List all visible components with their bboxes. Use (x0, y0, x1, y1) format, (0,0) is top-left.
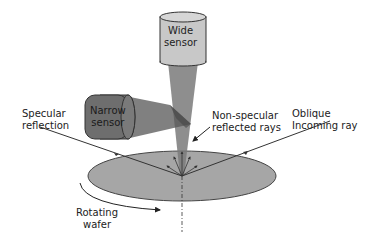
non-specular-leader (193, 127, 210, 141)
narrow-sensor-label-line1: Narrow (90, 105, 126, 117)
oblique-label-line2: Incoming ray (292, 120, 357, 132)
specular-reflection-label: Specular reflection (22, 108, 69, 132)
rotating-wafer-label-line1: Rotating (76, 207, 118, 219)
narrow-sensor-label: Narrow sensor (90, 105, 126, 129)
rotating-wafer-label: Rotating wafer (76, 207, 118, 231)
specular-reflection-label-line2: reflection (22, 120, 69, 132)
wide-sensor-label-line1: Wide (164, 25, 197, 37)
oblique-label: Oblique Incoming ray (292, 108, 357, 132)
non-specular-label: Non-specular reflected rays (212, 110, 281, 134)
non-specular-label-line1: Non-specular (212, 110, 281, 122)
specular-reflection-label-line1: Specular (22, 108, 69, 120)
narrow-sensor-label-line2: sensor (90, 117, 126, 129)
oblique-label-line1: Oblique (292, 108, 357, 120)
wide-sensor-label-line2: sensor (164, 37, 197, 49)
rotating-wafer-label-line2: wafer (76, 219, 118, 231)
wide-sensor-label: Wide sensor (164, 25, 197, 49)
non-specular-label-line2: reflected rays (212, 122, 281, 134)
